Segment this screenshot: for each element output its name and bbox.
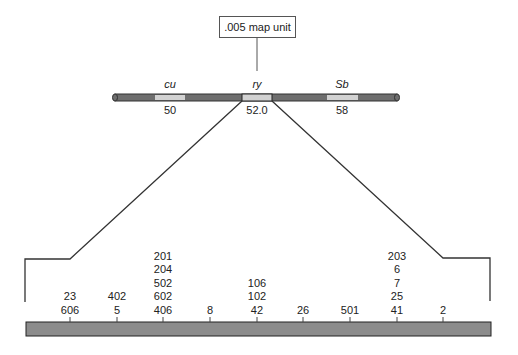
site-stack: 26 (297, 304, 309, 318)
mutant-label: 204 (154, 263, 172, 277)
mutant-label: 201 (154, 250, 172, 264)
mutant-label: 26 (297, 304, 309, 318)
mutant-label: 406 (154, 304, 172, 318)
site-stack: 23606 (61, 290, 79, 317)
mutant-label: 42 (248, 304, 266, 318)
right-telomere (395, 94, 400, 101)
mutant-label: 25 (388, 290, 406, 304)
position-cu: 50 (164, 104, 176, 116)
site-stack: 201204502602406 (154, 250, 172, 318)
mutant-label: 203 (388, 250, 406, 264)
tick-marks (70, 317, 443, 322)
left-telomere (113, 94, 118, 101)
mutant-label: 41 (388, 304, 406, 318)
sb-band (327, 95, 358, 100)
site-stack: 8 (207, 304, 213, 318)
mutant-label: 8 (207, 304, 213, 318)
chromosome (113, 94, 400, 101)
gene-ry: ry (252, 78, 261, 90)
position-ry: 52.0 (246, 104, 267, 116)
mutant-label: 2 (440, 304, 446, 318)
fine-map-bar (26, 322, 491, 336)
mutant-label: 606 (61, 304, 79, 318)
scale-label: .005 map unit (219, 16, 296, 38)
site-stack: 10610242 (248, 277, 266, 318)
site-stack: 501 (341, 304, 359, 318)
site-stack: 4025 (108, 290, 126, 317)
mutant-label: 501 (341, 304, 359, 318)
mutant-label: 102 (248, 290, 266, 304)
left-expansion-line (25, 101, 242, 302)
mutant-label: 106 (248, 277, 266, 291)
mutant-label: 7 (388, 277, 406, 291)
mutant-label: 602 (154, 290, 172, 304)
cu-band (155, 95, 185, 100)
mutant-label: 6 (388, 263, 406, 277)
mutant-label: 502 (154, 277, 172, 291)
gene-sb: Sb (335, 78, 348, 90)
site-stack: 2 (440, 304, 446, 318)
gene-cu: cu (164, 78, 176, 90)
mutant-label: 5 (108, 304, 126, 318)
ry-band (242, 94, 272, 101)
position-sb: 58 (336, 104, 348, 116)
right-expansion-line (272, 101, 490, 301)
mutant-label: 402 (108, 290, 126, 304)
site-stack: 203672541 (388, 250, 406, 318)
mutant-label: 23 (61, 290, 79, 304)
